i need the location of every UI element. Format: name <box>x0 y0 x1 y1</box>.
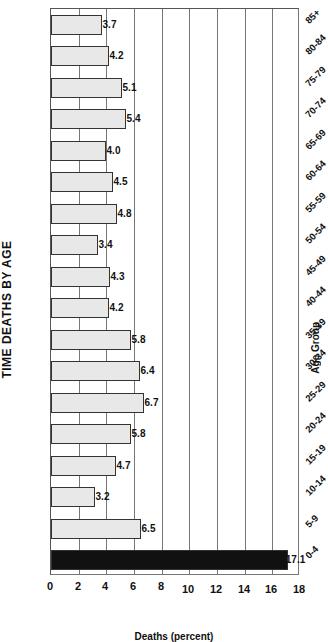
bar-value-label: 4.7 <box>117 459 131 470</box>
bar-value-label: 5.1 <box>122 81 136 92</box>
bar-value-label: 4.2 <box>110 302 124 313</box>
bar-5-9 <box>51 519 141 539</box>
y-tick-label: 2 <box>75 580 81 592</box>
bar-value-label: 3.7 <box>103 18 117 29</box>
x-tick-label: 45-49 <box>303 253 328 278</box>
bar-55-59 <box>51 204 117 224</box>
x-tick-label: 80-84 <box>303 32 328 57</box>
y-tick-label: 10 <box>182 583 194 595</box>
gridline <box>134 9 135 574</box>
gridline <box>189 9 190 574</box>
bar-40-44 <box>51 298 109 318</box>
bar-value-label: 3.4 <box>99 239 113 250</box>
bar-80-84 <box>51 46 109 66</box>
y-tick-label: 8 <box>158 580 164 592</box>
bar-15-19 <box>51 456 116 476</box>
bar-70-74 <box>51 109 126 129</box>
bar-value-label: 4.2 <box>110 50 124 61</box>
bar-60-64 <box>51 172 113 192</box>
x-tick-label: 20-24 <box>303 410 328 435</box>
x-tick-label: 40-44 <box>303 284 328 309</box>
gridline <box>162 9 163 574</box>
bar-50-54 <box>51 235 98 255</box>
bar-85+ <box>51 15 102 35</box>
plot-area <box>50 8 299 575</box>
gridline <box>217 9 218 574</box>
y-tick-label: 14 <box>238 583 250 595</box>
x-tick-label: 85+ <box>303 6 322 25</box>
gridline <box>272 9 273 574</box>
x-tick-label: 25-29 <box>303 379 328 404</box>
bar-value-label: 6.7 <box>144 396 158 407</box>
gridline <box>245 9 246 574</box>
bar-value-label: 5.8 <box>132 333 146 344</box>
bar-value-label: 5.4 <box>126 113 140 124</box>
y-tick-label: 6 <box>130 580 136 592</box>
bar-0-4 <box>51 550 288 570</box>
bar-value-label: 6.4 <box>140 365 154 376</box>
y-tick-label: 4 <box>102 580 108 592</box>
x-tick-label: 0-4 <box>303 544 320 561</box>
x-tick-label: 75-79 <box>303 64 328 89</box>
x-tick-label: 65-69 <box>303 127 328 152</box>
bar-value-label: 17.1 <box>285 554 304 565</box>
bar-value-label: 4.3 <box>111 270 125 281</box>
bar-25-29 <box>51 393 144 413</box>
x-tick-label: 10-14 <box>303 473 328 498</box>
y-tick-label: 18 <box>293 583 305 595</box>
bar-value-label: 6.5 <box>141 522 155 533</box>
bar-10-14 <box>51 487 95 507</box>
bar-value-label: 3.2 <box>96 491 110 502</box>
bar-value-label: 4.0 <box>107 144 121 155</box>
bar-value-label: 5.8 <box>132 428 146 439</box>
bar-75-79 <box>51 78 122 98</box>
bar-65-69 <box>51 141 106 161</box>
y-tick-label: 0 <box>47 580 53 592</box>
x-tick-label: 55-59 <box>303 190 328 215</box>
bar-value-label: 4.5 <box>114 176 128 187</box>
bar-35-39 <box>51 330 131 350</box>
x-tick-label: 60-64 <box>303 158 328 183</box>
x-axis-label: Age Group <box>310 322 321 374</box>
bar-value-label: 4.8 <box>118 207 132 218</box>
x-tick-label: 50-54 <box>303 221 328 246</box>
bar-30-34 <box>51 361 140 381</box>
bar-20-24 <box>51 424 131 444</box>
y-tick-label: 16 <box>265 583 277 595</box>
x-tick-label: 15-19 <box>303 442 328 467</box>
x-tick-label: 5-9 <box>303 512 320 529</box>
bar-45-49 <box>51 267 110 287</box>
y-axis-label: Deaths (percent) <box>135 631 214 642</box>
y-tick-label: 12 <box>210 583 222 595</box>
chart-title: TIME DEATHS BY AGE <box>0 0 14 619</box>
x-tick-label: 70-74 <box>303 95 328 120</box>
